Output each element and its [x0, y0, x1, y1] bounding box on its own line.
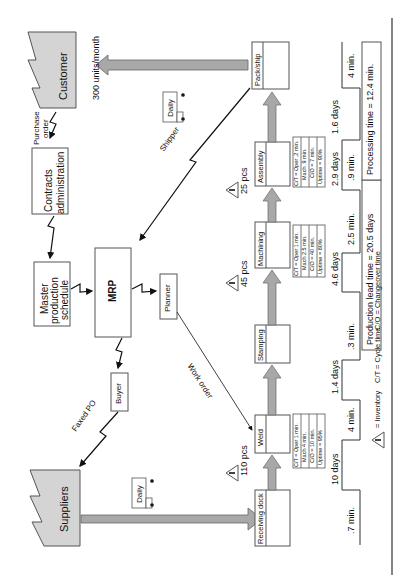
data-box-grid [293, 137, 325, 468]
machining-data-mach: Mach 2.5 min. [302, 235, 308, 270]
legend-changeover: C/O = Changeover time [374, 251, 382, 330]
timeline-min-6: 4 min. [347, 53, 356, 78]
process-name-weld: Weld [257, 429, 265, 446]
legend-inventory: = Inventory [374, 391, 382, 428]
inventory-qty-2: 45 pcs [240, 260, 249, 287]
process-name-pack-ship: Pack/ship [254, 53, 262, 86]
purchase-order-label-2: order [42, 119, 50, 138]
timeline-days-1: 10 days [331, 453, 340, 485]
process-name-machining: Machining [257, 232, 265, 266]
contracts-admin-line2: administration [56, 152, 66, 214]
suppliers-factory-icon [30, 470, 80, 546]
customer-label: Customer [58, 52, 69, 100]
electronic-flow-icon [48, 88, 250, 466]
timeline-min-5: .9 min. [347, 154, 356, 181]
daily-customer-label: Daily [167, 99, 175, 117]
timeline-line [342, 42, 360, 545]
machining-data-uptime: Uptime = 80% [318, 239, 324, 274]
inventory-qty-3: 25 pcs [240, 167, 249, 194]
shipment-arrow-from-suppliers [81, 508, 262, 530]
timeline-days-4: 2.9 days [331, 152, 340, 186]
timeline-days-3: 4.6 days [331, 252, 340, 286]
timeline-days-5: 1.6 days [331, 100, 340, 134]
timeline-min-4: 2.5 min. [347, 213, 356, 245]
timeline-days-2: 1.4 days [331, 360, 340, 394]
weld-data-ct: C/T = Oper 1 min. [294, 423, 300, 467]
customer-demand: 300 units/month [92, 36, 101, 100]
shipment-arrow-to-customer [96, 55, 248, 75]
process-name-stamping: Stamping [257, 329, 265, 361]
weld-data-uptime: Uptime = 95% [318, 430, 324, 465]
mrp-label: MRP [108, 280, 118, 302]
timeline-min-1: .7 min. [347, 507, 356, 534]
push-arrow-2 [263, 365, 281, 415]
weld-data-co: C/O = 10 min. [310, 429, 316, 463]
assembly-data-mach: Mach .9 min. [302, 149, 308, 180]
push-arrow-5 [263, 92, 281, 142]
daily-supplier-label: Daily [136, 485, 144, 503]
process-name-assembly: Assembly [257, 150, 265, 183]
assembly-data-co: C/O = 7 min. [310, 147, 316, 178]
push-arrow-4 [263, 188, 281, 222]
processing-time: Processing time = 12.4 min. [366, 64, 375, 175]
timeline-min-3: .3 min. [347, 323, 356, 350]
weld-data-mach: Mach 4 min. [302, 432, 308, 462]
mps-line3: schedule [60, 280, 70, 320]
push-arrow-1 [263, 455, 281, 490]
purchase-order-label-1: Purchase [33, 111, 41, 145]
inventory-qty-1: 110 pcs [240, 445, 249, 476]
push-arrow-3 [263, 270, 281, 325]
timeline-min-2: 4 min. [347, 407, 356, 432]
planner-label: Planner [164, 284, 172, 312]
process-name-receiving-dock: Receiving dock [257, 493, 265, 544]
legend-cycle-time: C/T = Cycle time [374, 328, 382, 384]
buyer-label: Buyer [115, 383, 123, 404]
suppliers-label: Suppliers [59, 486, 70, 532]
machining-data-co: C/O = 40 min. [310, 237, 316, 271]
assembly-data-ct: C/T = Oper .2 min. [294, 141, 300, 186]
contracts-admin-line1: Contracts [44, 169, 54, 212]
machining-data-ct: C/T = Oper 1 min. [294, 232, 300, 276]
assembly-data-uptime: Uptime = 90% [318, 149, 324, 184]
